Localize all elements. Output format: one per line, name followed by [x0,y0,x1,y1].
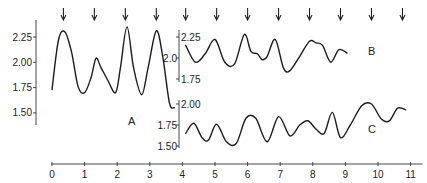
a-tick-label: 1.50 [13,107,33,118]
x-tick-label: 8 [310,169,316,180]
a-tick-label: 2.25 [13,32,33,43]
y-axis-a: 2.252.001.751.50 [13,20,36,125]
series-a-line [52,27,174,108]
x-tick-label: 1 [82,169,88,180]
y-axis-c: 2.001.751.50 [158,99,201,152]
x-tick-label: 10 [372,169,384,180]
c-tick-label: 2.00 [181,99,201,110]
series-label-b: B [368,45,375,57]
x-tick-label: 4 [180,169,186,180]
x-axis: 01234567891011 [49,162,422,180]
series-label-a: A [128,115,136,127]
x-tick-label: 2 [114,169,120,180]
arrow-markers [61,8,405,20]
y-axis-b: 2.252.01.75 [163,30,201,85]
x-tick-label: 11 [405,169,416,180]
x-tick-label: 6 [245,169,251,180]
b-tick-label: 2.25 [181,32,201,43]
c-tick-label: 1.50 [158,141,178,152]
chart: 2.252.001.751.50 2.252.01.75 2.001.751.5… [0,0,427,183]
series-b-line [186,34,347,72]
series-label-c: C [368,123,376,135]
x-tick-label: 5 [212,169,218,180]
b-tick-label: 2.0 [163,53,177,64]
a-tick-label: 2.00 [13,57,33,68]
x-tick-label: 3 [147,169,153,180]
x-tick-label: 7 [277,169,283,180]
a-tick-label: 1.75 [13,82,33,93]
x-tick-label: 0 [49,169,55,180]
x-tick-label: 9 [343,169,349,180]
c-tick-label: 1.75 [158,120,178,131]
b-tick-label: 1.75 [181,74,201,85]
